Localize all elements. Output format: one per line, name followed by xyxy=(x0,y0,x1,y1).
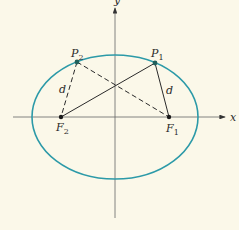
label-f2: F2 xyxy=(55,121,69,136)
label-f1: F1 xyxy=(165,122,179,137)
label-d-right: d xyxy=(166,84,173,97)
label-p2: P2 xyxy=(70,47,84,62)
point-p1 xyxy=(153,61,158,66)
label-p1: P1 xyxy=(150,47,164,62)
segment-p2-f1-dashed xyxy=(77,62,169,117)
label-y-axis: y xyxy=(113,0,121,7)
segment-p1-f2 xyxy=(61,63,155,117)
ellipse-diagram: P2 P1 F2 F1 d d x y xyxy=(0,0,239,230)
label-x-axis: x xyxy=(230,111,237,124)
point-f2 xyxy=(59,115,63,119)
label-d-left: d xyxy=(59,83,66,96)
point-f1 xyxy=(167,115,171,119)
